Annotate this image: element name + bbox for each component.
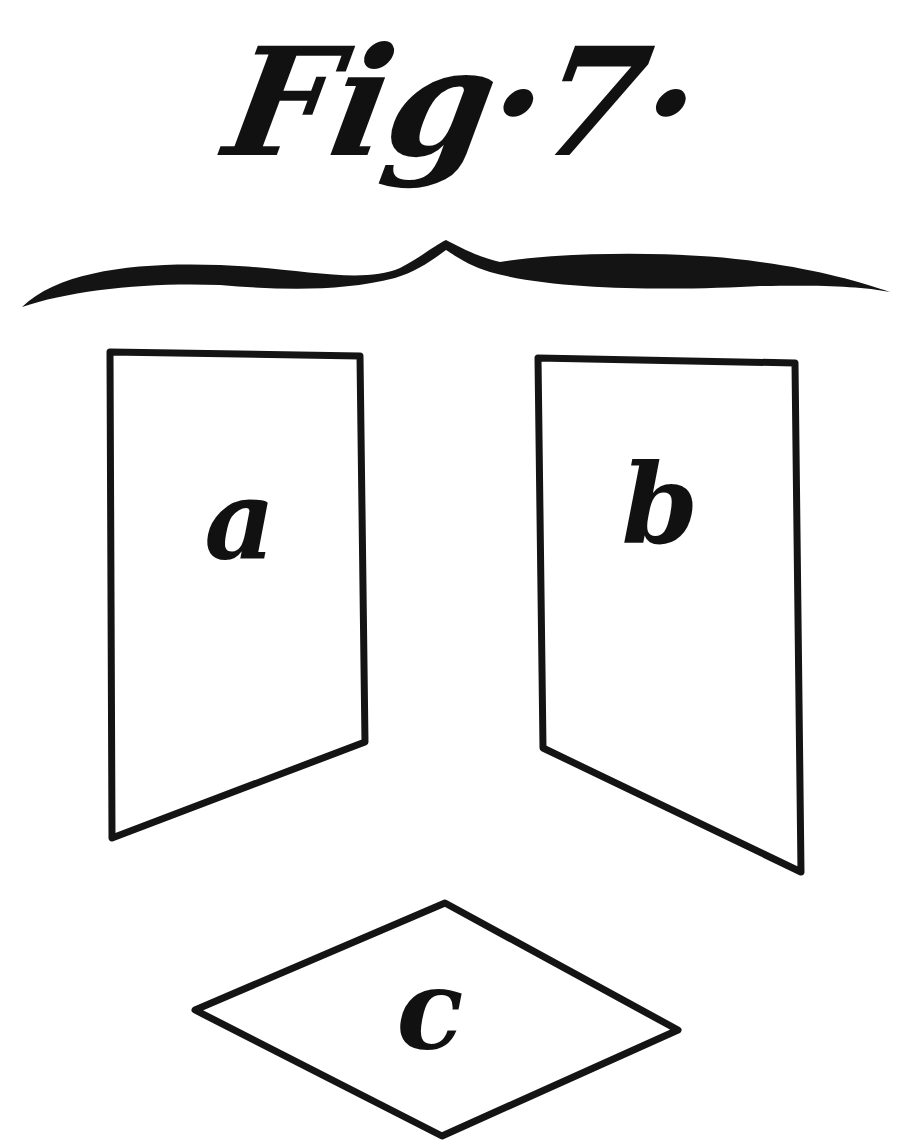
figure-7: Fig·7· a b c: [0, 0, 918, 1146]
plane-c-label: c: [370, 955, 490, 1065]
plane-a: [110, 352, 365, 838]
plane-a-label: a: [180, 465, 300, 575]
plane-b-label: b: [600, 450, 720, 560]
plane-b: [538, 358, 801, 872]
decorative-swash-divider: [22, 240, 890, 307]
